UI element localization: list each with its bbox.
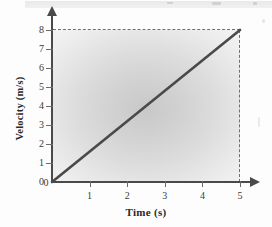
x-axis-title: Time (s) <box>52 206 240 218</box>
chart-figure: 012345678 012345 Time (s) Velocity (m/s) <box>0 0 272 227</box>
y-axis-title: Velocity (m/s) <box>14 49 25 169</box>
data-series-layer <box>0 0 272 227</box>
velocity-line <box>52 30 240 182</box>
